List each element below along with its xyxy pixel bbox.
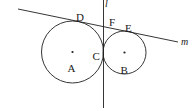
point-label-c: C <box>93 51 100 62</box>
line-m <box>18 9 178 42</box>
center-dot-a <box>71 51 73 53</box>
geometry-figure: A B C D E F l m <box>0 0 195 111</box>
center-dot-b <box>123 51 125 53</box>
point-label-b: B <box>121 65 128 76</box>
point-label-e: E <box>125 23 132 34</box>
point-label-a: A <box>68 63 76 74</box>
line-label-l: l <box>105 0 108 9</box>
point-label-f: F <box>109 17 115 28</box>
point-label-d: D <box>76 12 84 23</box>
line-label-m: m <box>181 37 188 47</box>
